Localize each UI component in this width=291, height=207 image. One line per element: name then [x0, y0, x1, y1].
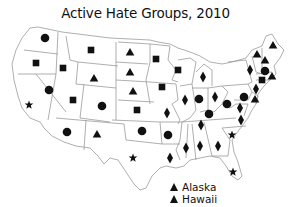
state-symbol-ar-circle — [164, 131, 173, 140]
state-symbol-al-diamond — [197, 141, 203, 152]
state-symbol-wv-circle — [223, 100, 232, 109]
state-symbol-fl-star — [229, 168, 238, 176]
state-symbol-ga-diamond — [215, 141, 221, 152]
state-symbol-tn-diamond — [198, 120, 204, 131]
state-symbol-id-square — [60, 65, 67, 72]
triangle-icon — [170, 195, 178, 203]
legend-label: Alaska — [182, 181, 216, 193]
state-symbol-nm-triangle — [93, 130, 102, 138]
state-symbol-ca-star — [25, 101, 34, 109]
state-symbol-mt-square — [88, 47, 95, 54]
state-symbol-sc-star — [228, 131, 237, 139]
state-symbol-ms-diamond — [183, 143, 189, 154]
state-symbol-nc-diamond — [238, 115, 244, 126]
state-symbol-nd-triangle — [126, 48, 135, 56]
state-symbol-ks-square — [134, 107, 141, 114]
state-symbol-co-circle — [98, 102, 107, 111]
triangle-icon — [170, 183, 178, 191]
state-symbol-or-square — [33, 60, 40, 67]
us-map — [0, 0, 291, 207]
state-symbol-ut-square — [70, 97, 77, 104]
state-symbol-vt-triangle — [253, 50, 262, 58]
state-symbol-pa-circle — [240, 93, 249, 102]
state-borders — [12, 27, 284, 190]
legend-label: Hawaii — [182, 193, 217, 205]
state-symbol-ne-triangle — [129, 87, 138, 95]
state-symbol-ok-circle — [138, 127, 147, 136]
state-symbol-ia-square — [159, 84, 166, 91]
state-symbol-ct-square — [259, 77, 266, 84]
state-symbol-in-circle — [195, 95, 204, 104]
state-symbol-wi-square — [175, 67, 182, 74]
legend-item-hawaii: Hawaii — [170, 193, 217, 205]
state-symbol-ri-triangle — [268, 72, 277, 80]
state-symbols — [25, 34, 278, 176]
state-symbol-il-diamond — [182, 95, 188, 106]
state-symbol-tx-star — [129, 154, 138, 162]
state-symbol-oh-diamond — [212, 92, 218, 103]
state-symbol-mo-diamond — [164, 108, 170, 119]
state-symbol-nv-circle — [45, 86, 54, 95]
state-symbol-wy-triangle — [90, 74, 99, 82]
us-outline — [12, 27, 284, 190]
state-symbol-mn-square — [153, 56, 160, 63]
legend-item-alaska: Alaska — [170, 181, 216, 193]
state-symbol-sd-triangle — [126, 68, 135, 76]
state-symbol-mi-diamond — [200, 72, 206, 83]
state-symbol-az-circle — [63, 128, 72, 137]
state-symbol-la-diamond — [167, 153, 173, 164]
state-symbol-ma-circle — [261, 67, 270, 76]
state-symbol-me-triangle — [269, 41, 278, 49]
state-symbol-ky-circle — [205, 110, 214, 119]
state-symbol-wa-circle — [41, 34, 50, 43]
